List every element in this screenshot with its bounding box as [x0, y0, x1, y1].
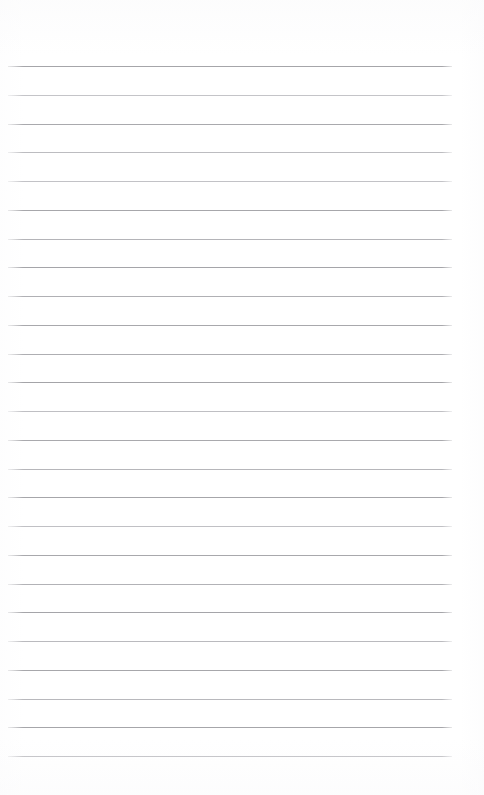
writing-line-slot[interactable] [8, 642, 452, 670]
writing-line-slot[interactable] [8, 556, 452, 584]
writing-line-slot[interactable] [8, 498, 452, 526]
writing-line-slot[interactable] [8, 585, 452, 612]
writing-line-slot[interactable] [8, 700, 452, 727]
writing-line-slot[interactable] [8, 355, 452, 382]
writing-line-slot[interactable] [8, 412, 452, 440]
notebook-page [0, 0, 484, 795]
writing-line-slot[interactable] [8, 728, 452, 756]
rule-line [8, 756, 452, 757]
writing-line-slot[interactable] [8, 326, 452, 354]
writing-line-slot[interactable] [8, 613, 452, 641]
writing-line-slot[interactable] [8, 268, 452, 296]
writing-line-slot[interactable] [8, 527, 452, 555]
writing-line-slot[interactable] [8, 297, 452, 325]
ruled-writing-area[interactable] [0, 0, 484, 795]
writing-line-slot[interactable] [8, 67, 452, 95]
writing-line-slot[interactable] [8, 441, 452, 469]
writing-line-slot[interactable] [8, 211, 452, 239]
writing-line-slot[interactable] [8, 383, 452, 411]
writing-line-slot[interactable] [8, 182, 452, 210]
writing-line-slot[interactable] [8, 153, 452, 181]
writing-line-slot[interactable] [8, 470, 452, 497]
writing-line-slot[interactable] [8, 96, 452, 124]
writing-line-slot[interactable] [8, 240, 452, 267]
writing-line-slot[interactable] [8, 125, 452, 152]
writing-line-slot[interactable] [8, 671, 452, 699]
